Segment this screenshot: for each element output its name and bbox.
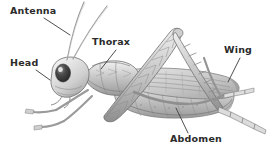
grasshopper-anatomy-illustration (0, 0, 278, 154)
leader-head (36, 70, 50, 80)
label-wing: Wing (224, 44, 252, 55)
label-antenna: Antenna (10, 5, 56, 16)
leader-wing (228, 58, 240, 82)
label-thorax: Thorax (92, 36, 130, 47)
eye (56, 64, 71, 82)
antennae (67, 2, 107, 60)
label-abdomen: Abdomen (170, 133, 222, 144)
label-head: Head (10, 57, 38, 68)
leader-antenna (44, 18, 70, 35)
